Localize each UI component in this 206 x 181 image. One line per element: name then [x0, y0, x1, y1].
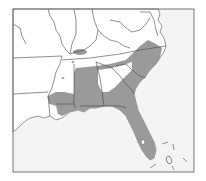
- range-map: [0, 0, 206, 181]
- lake-okeechobee: [141, 140, 145, 145]
- range-map-svg: [0, 0, 206, 181]
- range-patch-ms: [62, 77, 65, 79]
- range-patch-tn: [72, 61, 75, 63]
